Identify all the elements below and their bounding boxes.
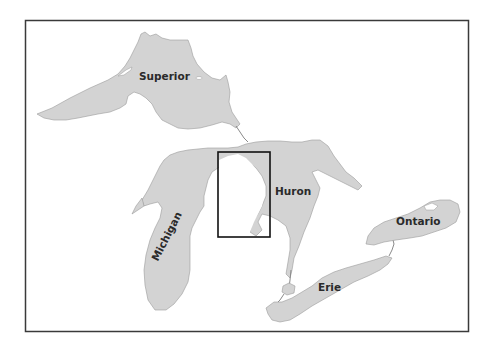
- label-huron: Huron: [275, 185, 311, 197]
- st-marys-river: [236, 126, 248, 142]
- label-erie: Erie: [318, 281, 341, 293]
- great-lakes-map: Superior Michigan Huron Erie Ontario: [0, 0, 495, 351]
- label-superior: Superior: [139, 70, 191, 82]
- green-bay: [132, 198, 144, 214]
- label-ontario: Ontario: [396, 215, 441, 227]
- superior-island: [196, 77, 202, 80]
- niagara-river: [389, 240, 394, 256]
- lake-st-clair: [282, 283, 295, 295]
